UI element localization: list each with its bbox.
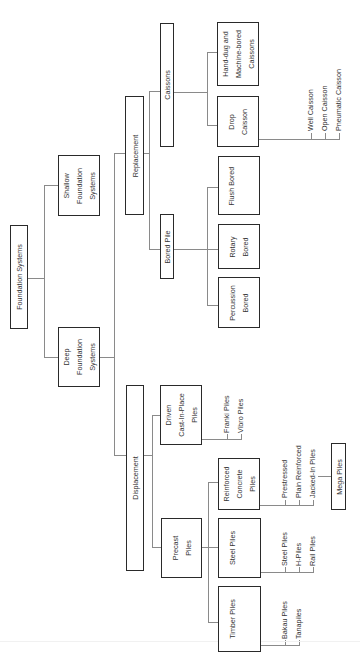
- node-label: Deep Foundation Systems: [60, 339, 99, 375]
- leaf-bakau-piles: Bakau Piles: [280, 601, 289, 639]
- node-label: Steel Piles: [225, 531, 238, 565]
- connector: [44, 185, 45, 357]
- node-label: Driven Cast-In-Place Piles: [162, 393, 201, 437]
- connector: [201, 547, 208, 548]
- leaf-jacked-in-piles: Jacked-In Piles: [308, 449, 317, 498]
- connector: [207, 125, 217, 126]
- leaf-steel-piles: Steel Piles: [280, 532, 289, 566]
- connector: [143, 455, 152, 456]
- node-label: Precast Piles: [169, 536, 195, 560]
- connector: [152, 415, 153, 547]
- leaf-well-caisson: Well Caisson: [306, 89, 315, 131]
- connector: [27, 278, 44, 279]
- connector: [149, 91, 150, 249]
- connector: [152, 547, 161, 548]
- node-driven-cast-in-place-piles: Driven Cast-In-Place Piles: [160, 385, 202, 445]
- connector: [152, 415, 160, 416]
- connector: [114, 455, 126, 456]
- node-rotary-bored: Rotary Bored: [218, 224, 260, 269]
- node-precast-piles: Precast Piles: [161, 518, 202, 578]
- node-label: Drop Caisson: [225, 109, 251, 135]
- node-label: Reinforced Concrete Piles: [220, 467, 259, 502]
- node-label: Displacement: [129, 456, 142, 500]
- node-label: Shallow Foundation Systems: [60, 168, 99, 204]
- connector: [311, 133, 312, 139]
- connector: [201, 439, 242, 440]
- connector: [299, 567, 300, 572]
- connector: [207, 305, 218, 306]
- node-label: Foundation Systems: [13, 244, 26, 310]
- node-bored-pile: Bored Pile: [160, 214, 174, 279]
- connector: [114, 153, 115, 455]
- node-caissons: Caissons: [160, 23, 174, 147]
- node-label: Bored Pile: [161, 230, 174, 263]
- connector: [208, 622, 218, 623]
- connector: [207, 52, 217, 53]
- leaf-pneumatic-caisson: Pneumatic Caisson: [334, 69, 343, 131]
- connector: [318, 476, 331, 477]
- connector: [149, 91, 160, 92]
- connector: [208, 547, 218, 548]
- connector: [44, 185, 58, 186]
- node-shallow-foundation-systems: Shallow Foundation Systems: [58, 155, 100, 216]
- node-label: Hand-dug and Machine-bored Caissons: [219, 30, 258, 78]
- connector: [227, 434, 228, 439]
- leaf-h-piles: H-Piles: [294, 543, 303, 566]
- node-flush-bored: Flush Bored: [218, 156, 260, 215]
- node-replacement: Replacement: [125, 96, 144, 215]
- connector: [260, 572, 314, 573]
- node-deep-foundation-systems: Deep Foundation Systems: [58, 327, 100, 387]
- foundation-systems-tree: Foundation Systems Shallow Foundation Sy…: [0, 0, 360, 664]
- node-drop-caisson: Drop Caisson: [217, 96, 259, 147]
- node-steel-piles: Steel Piles: [218, 518, 261, 578]
- connector: [259, 505, 314, 506]
- connector: [325, 133, 326, 139]
- leaf-plain-reinforced: Plain Reinforced: [294, 445, 303, 498]
- connector: [241, 434, 242, 439]
- connector: [313, 567, 314, 572]
- leaf-franki-piles: Franki Piles: [222, 395, 231, 433]
- leaf-prestressed: Prestressed: [280, 460, 289, 498]
- node-label: Mega Piles: [332, 459, 345, 495]
- connector: [313, 500, 314, 505]
- node-hand-dug-machine-bored-caissons: Hand-dug and Machine-bored Caissons: [217, 22, 259, 86]
- connector: [260, 645, 300, 646]
- connector: [285, 500, 286, 505]
- connector: [207, 52, 208, 125]
- connector: [207, 249, 218, 250]
- connector: [100, 357, 114, 358]
- node-label: Rotary Bored: [226, 236, 252, 257]
- connector: [339, 133, 340, 139]
- node-reinforced-concrete-piles: Reinforced Concrete Piles: [218, 458, 260, 510]
- node-displacement: Displacement: [126, 385, 144, 571]
- connector: [208, 482, 218, 483]
- leaf-tanapiles: Tanapiles: [294, 609, 303, 639]
- node-label: Percussion Bored: [226, 285, 252, 321]
- connector: [44, 357, 58, 358]
- connector: [207, 187, 208, 305]
- leaf-vibro-piles: Vibro Piles: [236, 399, 245, 433]
- leaf-open-caisson: Open Caisson: [320, 85, 329, 131]
- node-label: Timber Piles: [225, 599, 238, 639]
- scan-artifact-line: [0, 641, 360, 642]
- node-label: Flush Bored: [225, 166, 238, 205]
- node-label: Caissons: [161, 70, 174, 100]
- connector: [114, 153, 125, 154]
- node-mega-piles: Mega Piles: [331, 443, 346, 510]
- connector: [259, 139, 340, 140]
- connector: [285, 567, 286, 572]
- connector: [149, 249, 160, 250]
- node-timber-piles: Timber Piles: [218, 586, 261, 652]
- connector: [173, 249, 207, 250]
- connector: [207, 187, 218, 188]
- node-label: Replacement: [128, 134, 141, 176]
- connector: [173, 92, 207, 93]
- leaf-rail-piles: Rail Piles: [308, 536, 317, 566]
- node-foundation-systems: Foundation Systems: [10, 225, 28, 329]
- node-percussion-bored: Percussion Bored: [218, 277, 260, 328]
- connector: [299, 500, 300, 505]
- connector: [208, 482, 209, 622]
